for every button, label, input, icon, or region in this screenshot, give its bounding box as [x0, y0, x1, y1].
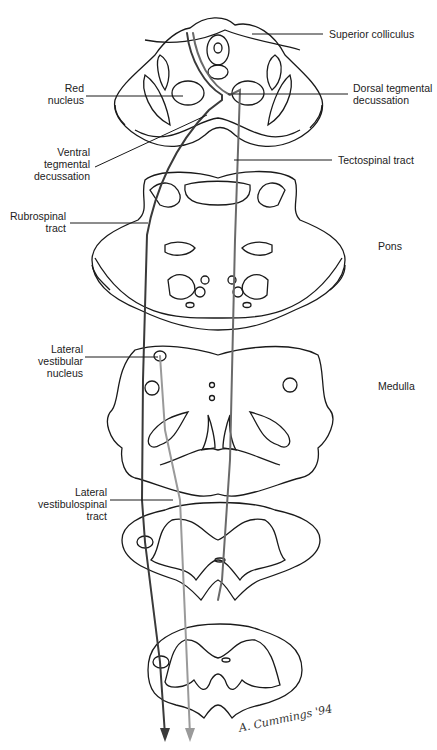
label-lateral-vestibulospinal-tract: Lateral vestibulospinal tract [20, 486, 107, 522]
label-tectospinal-tract: Tectospinal tract [338, 154, 414, 166]
label-superior-colliculus: Superior colliculus [329, 28, 414, 40]
label-dorsal-tegmental-decussation: Dorsal tegmental decussation [353, 82, 432, 106]
arrowhead-light [185, 728, 195, 742]
label-red-nucleus: Red nucleus [40, 82, 84, 106]
label-rubrospinal-tract: Rubrospinal tract [2, 210, 66, 234]
label-lateral-vestibular-nucleus: Lateral vestibular nucleus [20, 343, 83, 379]
label-medulla: Medulla [378, 380, 415, 392]
label-pons: Pons [378, 240, 402, 252]
lower-spinal-cord-section [148, 624, 302, 718]
arrowhead-dark [160, 728, 170, 742]
pons-section [92, 172, 345, 331]
midbrain-section [115, 18, 323, 146]
label-ventral-tegmental-decussation: Ventral tegmental decussation [20, 146, 90, 182]
